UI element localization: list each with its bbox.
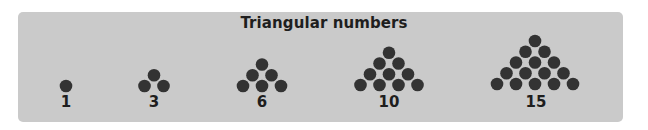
dot bbox=[256, 58, 269, 71]
dot bbox=[157, 80, 170, 93]
dot bbox=[519, 67, 532, 80]
triangle-figure-15 bbox=[491, 35, 580, 91]
dot bbox=[246, 69, 259, 82]
dot bbox=[148, 69, 161, 82]
dot bbox=[138, 80, 151, 93]
figure-label-15: 15 bbox=[516, 93, 556, 111]
dot bbox=[529, 78, 542, 91]
dot bbox=[548, 56, 561, 69]
figure-label-3: 3 bbox=[134, 93, 174, 111]
dot bbox=[491, 78, 504, 91]
dot bbox=[402, 68, 415, 81]
figure-label-10: 10 bbox=[369, 93, 409, 111]
triangle-figure-10 bbox=[354, 46, 424, 91]
dot bbox=[383, 68, 396, 81]
figure-label-6: 6 bbox=[242, 93, 282, 111]
figure-label-1: 1 bbox=[46, 93, 86, 111]
dot bbox=[510, 78, 523, 91]
dot bbox=[529, 35, 542, 48]
dot bbox=[237, 80, 250, 93]
dot bbox=[567, 78, 580, 91]
dot bbox=[392, 79, 405, 92]
dot bbox=[510, 56, 523, 69]
dot bbox=[392, 57, 405, 70]
dot bbox=[519, 45, 532, 58]
dot bbox=[373, 57, 386, 70]
dot bbox=[538, 67, 551, 80]
dot bbox=[354, 79, 367, 92]
dot bbox=[538, 45, 551, 58]
dot bbox=[256, 80, 269, 93]
triangle-figure-6 bbox=[237, 58, 288, 92]
dot bbox=[548, 78, 561, 91]
dot bbox=[265, 69, 278, 82]
dot bbox=[411, 79, 424, 92]
dot bbox=[373, 79, 386, 92]
dot bbox=[383, 46, 396, 59]
dot bbox=[557, 67, 570, 80]
triangle-figure-1 bbox=[60, 80, 73, 93]
dot bbox=[60, 80, 73, 93]
triangle-figure-3 bbox=[138, 69, 170, 92]
dot bbox=[275, 80, 288, 93]
dot bbox=[364, 68, 377, 81]
dot bbox=[500, 67, 513, 80]
dot bbox=[529, 56, 542, 69]
